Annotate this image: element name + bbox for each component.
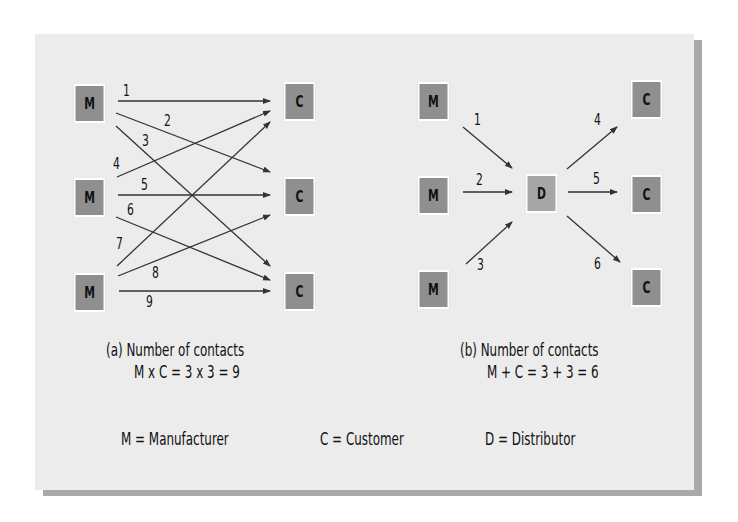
manufacturer-box-a3: M [74,273,105,312]
contact-label-a2: 2 [164,114,171,129]
caption-b-title: (b) Number of contacts [460,341,599,361]
customer-box-b1: C [631,80,662,119]
contact-label-a8: 8 [152,266,159,281]
manufacturer-box-a1: M [74,84,105,123]
customer-box-b2: C [631,175,662,214]
contact-label-b4: 4 [594,113,601,128]
caption-b-formula: M + C = 3 + 3 = 6 [487,363,599,383]
manufacturer-box-b2: M [418,176,449,215]
customer-box-b3: C [631,268,662,307]
distributor-box: D [526,174,557,213]
contact-label-a1: 1 [123,84,130,99]
manufacturer-box-b1: M [418,82,449,121]
legend-manufacturer: M = Manufacturer [121,430,229,450]
customer-box-a3: C [284,272,315,311]
contact-label-b6: 6 [594,257,601,272]
legend-distributor: D = Distributor [485,430,575,450]
contact-label-b2: 2 [476,173,483,188]
contact-label-a5: 5 [141,178,148,193]
legend-customer: C = Customer [320,430,404,450]
customer-box-a2: C [284,177,315,216]
contact-label-a3: 3 [142,134,149,149]
caption-a-formula: M x C = 3 x 3 = 9 [134,363,240,383]
contact-label-b1: 1 [474,113,481,128]
manufacturer-box-a2: M [74,178,105,217]
contact-label-a6: 6 [127,203,134,218]
customer-box-a1: C [284,82,315,121]
contact-label-b5: 5 [593,172,600,187]
contact-label-a9: 9 [146,295,153,310]
contact-label-b3: 3 [477,258,484,273]
caption-a-title: (a) Number of contacts [106,341,244,361]
contact-label-a4: 4 [113,157,120,172]
contact-label-a7: 7 [116,237,123,252]
manufacturer-box-b3: M [418,270,449,309]
